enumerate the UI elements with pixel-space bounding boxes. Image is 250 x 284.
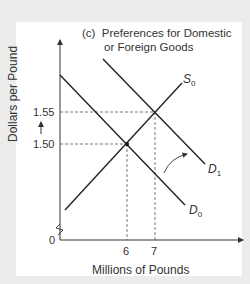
- title-line-2: or Foreign Goods: [82, 40, 232, 54]
- title-line-1: Preferences for Domestic: [102, 27, 232, 39]
- label-d1: D1: [208, 162, 221, 178]
- equilibrium-point: [125, 142, 129, 146]
- x-tick-6: 6: [123, 245, 129, 257]
- title-prefix: (c): [82, 27, 95, 39]
- origin-label: 0: [49, 234, 55, 246]
- chart-title: (c) Preferences for Domestic or Foreign …: [82, 26, 232, 54]
- shift-arrow-icon: [164, 154, 187, 173]
- x-tick-7: 7: [151, 245, 157, 257]
- curve-s0: [65, 83, 182, 210]
- label-d0: D0: [189, 203, 202, 219]
- y-tick-1-50: 1.50: [33, 138, 54, 150]
- y-axis-label: Dollars per Pound: [6, 46, 20, 142]
- curve-d0: [60, 75, 185, 205]
- label-s0: S0: [183, 72, 195, 88]
- x-axis-label: Millions of Pounds: [92, 263, 189, 277]
- y-tick-1-55: 1.55: [33, 106, 54, 118]
